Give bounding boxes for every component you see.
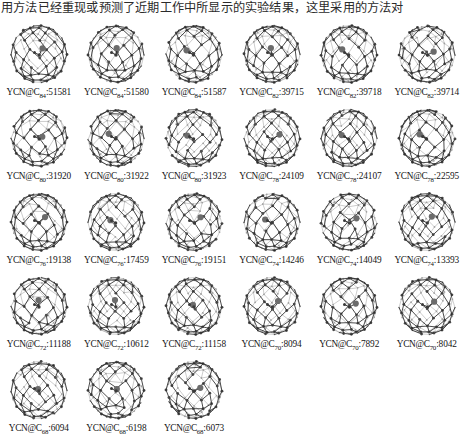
fullerene-cell-78-22595: YCN@C78:22595	[388, 101, 466, 185]
fullerene-label: YCN@C84:51587	[162, 87, 227, 101]
fullerene-cell-80-31922: YCN@C80:31922	[78, 101, 156, 185]
label-prefix: YCN@C	[84, 255, 117, 265]
label-prefix: YCN@C	[317, 255, 350, 265]
label-isomer: :24109	[279, 171, 304, 181]
label-prefix: YCN@C	[397, 339, 430, 349]
label-prefix: YCN@C	[239, 171, 272, 181]
label-isomer: :6198	[126, 423, 147, 433]
fullerene-label: YCN@C72:10612	[84, 339, 149, 353]
fullerene-cell-72-11158: YCN@C72:11158	[155, 269, 233, 353]
fullerene-cage-icon	[5, 106, 73, 170]
fullerene-cell-78-24107: YCN@C78:24107	[310, 101, 388, 185]
fullerene-label: YCN@C78:22595	[394, 171, 459, 185]
fullerene-label: YCN@C68:6198	[86, 423, 146, 437]
fullerene-cage-icon	[82, 22, 150, 86]
fullerene-cell-78-24109: YCN@C78:24109	[233, 101, 311, 185]
label-prefix: YCN@C	[239, 87, 272, 97]
fullerene-cage-icon	[393, 106, 461, 170]
label-prefix: YCN@C	[162, 171, 195, 181]
label-prefix: YCN@C	[84, 171, 117, 181]
fullerene-label: YCN@C70:8094	[242, 339, 302, 353]
fullerene-cell-80-31923: YCN@C80:31923	[155, 101, 233, 185]
fullerene-cell-68-6198: YCN@C68:6198	[78, 353, 156, 437]
label-prefix: YCN@C	[162, 339, 195, 349]
label-isomer: :31922	[123, 171, 148, 181]
fullerene-row: YCN@C76:19138YCN@C76:17459YCN@C76:19151Y…	[0, 185, 466, 269]
fullerene-label: YCN@C82:39714	[394, 87, 459, 101]
fullerene-cell-82-39715: YCN@C82:39715	[233, 17, 311, 101]
fullerene-cell-76-17459: YCN@C76:17459	[78, 185, 156, 269]
fullerene-cell-84-51587: YCN@C84:51587	[155, 17, 233, 101]
label-isomer: :6073	[203, 423, 224, 433]
label-isomer: :19151	[201, 255, 226, 265]
label-prefix: YCN@C	[319, 339, 352, 349]
label-isomer: :51580	[123, 87, 148, 97]
fullerene-cell-82-39714: YCN@C82:39714	[388, 17, 466, 101]
label-isomer: :39715	[279, 87, 304, 97]
fullerene-label: YCN@C70:8042	[397, 339, 457, 353]
label-isomer: :22595	[434, 171, 459, 181]
fullerene-cage-icon	[160, 274, 228, 338]
fullerene-label: YCN@C70:7892	[319, 339, 379, 353]
label-isomer: :17459	[123, 255, 148, 265]
fullerene-label: YCN@C82:39718	[317, 87, 382, 101]
label-isomer: :31923	[201, 171, 226, 181]
label-isomer: :51587	[201, 87, 226, 97]
top-caption-text: 用方法已经重现或预测了近期工作中所显示的实验结果，这里采用的方法对	[0, 0, 466, 17]
fullerene-cage-icon	[315, 22, 383, 86]
fullerene-cage-icon	[82, 190, 150, 254]
fullerene-cage-icon	[238, 22, 306, 86]
fullerene-label: YCN@C82:39715	[239, 87, 304, 101]
label-isomer: :6094	[48, 423, 69, 433]
fullerene-cage-icon	[315, 274, 383, 338]
fullerene-cell-72-11188: YCN@C72:11188	[0, 269, 78, 353]
label-prefix: YCN@C	[394, 255, 427, 265]
fullerene-cage-icon	[82, 106, 150, 170]
label-isomer: :39714	[434, 87, 459, 97]
fullerene-cell-68-6094: YCN@C68:6094	[0, 353, 78, 437]
fullerene-label: YCN@C72:11158	[162, 339, 226, 353]
label-isomer: :10612	[123, 339, 148, 349]
fullerene-label: YCN@C76:19151	[162, 255, 227, 269]
fullerene-row: YCN@C84:51581YCN@C84:51580YCN@C84:51587Y…	[0, 17, 466, 101]
label-isomer: :8094	[281, 339, 302, 349]
fullerene-label: YCN@C74:13393	[394, 255, 459, 269]
label-prefix: YCN@C	[6, 171, 39, 181]
label-prefix: YCN@C	[164, 423, 197, 433]
label-isomer: :7892	[359, 339, 380, 349]
label-prefix: YCN@C	[317, 87, 350, 97]
fullerene-cage-icon	[82, 358, 150, 422]
fullerene-cell-70-7892: YCN@C70:7892	[310, 269, 388, 353]
fullerene-label: YCN@C76:19138	[6, 255, 71, 269]
fullerene-cell-80-31920: YCN@C80:31920	[0, 101, 78, 185]
label-prefix: YCN@C	[162, 87, 195, 97]
fullerene-cell-76-19151: YCN@C76:19151	[155, 185, 233, 269]
fullerene-label: YCN@C80:31922	[84, 171, 149, 185]
fullerene-row: YCN@C72:11188YCN@C72:10612YCN@C72:11158Y…	[0, 269, 466, 353]
fullerene-cell-74-13393: YCN@C74:13393	[388, 185, 466, 269]
label-prefix: YCN@C	[84, 87, 117, 97]
label-isomer: :13393	[434, 255, 459, 265]
fullerene-cage-icon	[160, 190, 228, 254]
fullerene-cell-74-14246: YCN@C74:14246	[233, 185, 311, 269]
label-prefix: YCN@C	[7, 339, 40, 349]
fullerene-cell-84-51580: YCN@C84:51580	[78, 17, 156, 101]
label-prefix: YCN@C	[317, 171, 350, 181]
fullerene-label: YCN@C74:14246	[239, 255, 304, 269]
fullerene-cage-icon	[393, 22, 461, 86]
fullerene-cage-icon	[315, 106, 383, 170]
fullerene-cell-82-39718: YCN@C82:39718	[310, 17, 388, 101]
fullerene-cell-72-10612: YCN@C72:10612	[78, 269, 156, 353]
fullerene-cell-74-14049: YCN@C74:14049	[310, 185, 388, 269]
fullerene-label: YCN@C80:31923	[162, 171, 227, 185]
fullerene-cage-icon	[393, 190, 461, 254]
fullerene-label: YCN@C68:6094	[9, 423, 69, 437]
fullerene-label: YCN@C76:17459	[84, 255, 149, 269]
fullerene-label: YCN@C78:24107	[317, 171, 382, 185]
fullerene-label: YCN@C84:51580	[84, 87, 149, 101]
fullerene-cell-84-51581: YCN@C84:51581	[0, 17, 78, 101]
fullerene-cage-icon	[315, 190, 383, 254]
fullerene-row: YCN@C68:6094YCN@C68:6198YCN@C68:6073	[0, 353, 466, 437]
fullerene-cage-icon	[5, 358, 73, 422]
label-isomer: :14049	[356, 255, 381, 265]
